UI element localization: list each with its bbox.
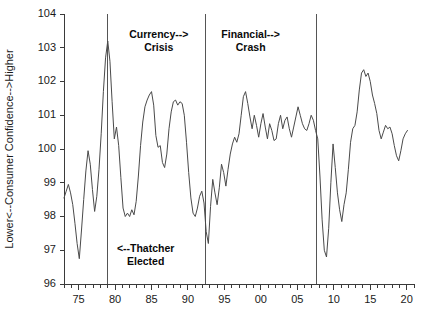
annotation-thatcher-elected: <--ThatcherElected: [117, 242, 174, 267]
annotation-line-1: Currency-->: [129, 28, 188, 40]
chart-figure: 96979899100101102103104 7580859095000510…: [0, 0, 422, 318]
x-tick-label: 75: [72, 293, 84, 305]
y-tick-label: 101: [38, 108, 56, 120]
y-tick-label: 98: [44, 209, 56, 221]
x-tick-label: 85: [145, 293, 157, 305]
x-tick-label: 10: [328, 293, 340, 305]
annotation-line-2: Crisis: [144, 41, 173, 53]
data-series-group: [64, 41, 407, 259]
x-tick-label: 00: [255, 293, 267, 305]
annotation-line-1: Financial-->: [221, 28, 280, 40]
y-tick-label: 97: [44, 243, 56, 255]
series-line: [64, 41, 407, 259]
chart-annotations: Currency-->CrisisFinancial-->Crash<--Tha…: [117, 28, 280, 267]
x-tick-label: 90: [182, 293, 194, 305]
annotation-line-1: <--Thatcher: [117, 242, 174, 254]
y-tick-label: 99: [44, 176, 56, 188]
y-tick-label: 96: [44, 277, 56, 289]
y-tick-label: 102: [38, 74, 56, 86]
annotation-line-2: Crash: [236, 41, 266, 53]
consumer-confidence-line-chart: 96979899100101102103104 7580859095000510…: [0, 0, 422, 318]
x-tick-label: 05: [291, 293, 303, 305]
y-axis-tick-labels: 96979899100101102103104: [38, 7, 56, 289]
x-axis-tick-labels: 75808590950005101520: [72, 293, 412, 305]
axis-tick-marks: [60, 14, 414, 290]
annotation-line-2: Elected: [127, 255, 164, 267]
x-tick-label: 20: [401, 293, 413, 305]
y-tick-label: 103: [38, 41, 56, 53]
y-axis-title: Lower<--Consumer Confidence-->Higher: [3, 49, 15, 249]
x-tick-label: 95: [218, 293, 230, 305]
y-tick-label: 104: [38, 7, 56, 19]
x-tick-label: 80: [109, 293, 121, 305]
y-axis-title-group: Lower<--Consumer Confidence-->Higher: [3, 49, 15, 249]
x-tick-label: 15: [364, 293, 376, 305]
annotation-financial-crash: Financial-->Crash: [221, 28, 280, 53]
y-tick-label: 100: [38, 142, 56, 154]
annotation-currency-crisis: Currency-->Crisis: [129, 28, 188, 53]
